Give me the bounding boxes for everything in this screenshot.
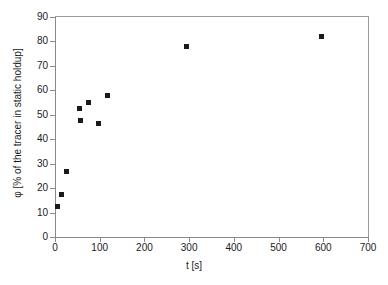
data-point: [55, 204, 60, 209]
data-point: [78, 118, 83, 123]
figure-canvas: 0102030405060708090 01002003004005006007…: [0, 0, 388, 285]
y-axis-title-container: φ [% of the tracer in static holdup]: [11, 23, 25, 223]
data-point: [64, 169, 69, 174]
data-point: [96, 121, 101, 126]
x-axis-tick-label: 500: [259, 243, 299, 253]
x-axis-tick-label: 700: [348, 243, 388, 253]
x-axis-tick-label: 400: [214, 243, 254, 253]
x-axis-title: t [s]: [0, 260, 388, 271]
scan-edge-artifact: [246, 272, 386, 280]
x-axis-tick-label: 300: [169, 243, 209, 253]
data-point: [59, 192, 64, 197]
data-point: [105, 93, 110, 98]
x-axis-tick-label: 200: [124, 243, 164, 253]
x-axis-tick-label: 100: [80, 243, 120, 253]
data-point: [184, 44, 189, 49]
x-axis-tick-label: 0: [35, 243, 75, 253]
data-point: [86, 100, 91, 105]
x-axis-tick-label: 600: [303, 243, 343, 253]
y-axis-tick-label-container: 0: [6, 232, 48, 242]
data-point: [77, 106, 82, 111]
y-axis-tick-label: 0: [8, 232, 48, 242]
y-axis-tick-label-container: 90: [6, 12, 48, 22]
plot-frame-right: [368, 16, 369, 238]
y-axis-title: φ [% of the tracer in static holdup]: [11, 23, 25, 223]
y-axis-tick-label: 90: [8, 12, 48, 22]
data-point: [319, 34, 324, 39]
x-axis-line: [55, 237, 369, 238]
plot-area: [55, 17, 368, 237]
